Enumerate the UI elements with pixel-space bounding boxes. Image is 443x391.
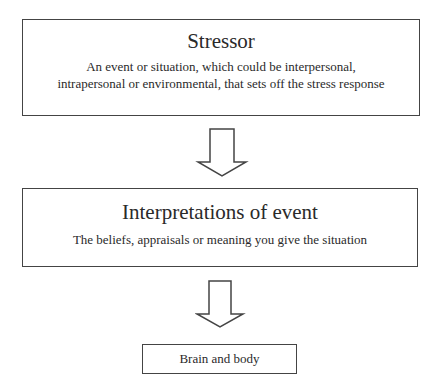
interpretations-box: Interpretations of event The beliefs, ap… [22,188,418,267]
brain-body-box: Brain and body [142,344,297,374]
stressor-box: Stressor An event or situation, which co… [22,19,420,116]
down-arrow-icon [195,279,247,330]
brain-body-title: Brain and body [143,345,296,372]
interpretations-title: Interpretations of event [23,200,417,224]
interpretations-description: The beliefs, appraisals or meaning you g… [23,231,417,248]
down-arrow-icon [195,127,249,179]
stressor-description: An event or situation, which could be in… [23,58,419,92]
stressor-title: Stressor [23,29,419,53]
